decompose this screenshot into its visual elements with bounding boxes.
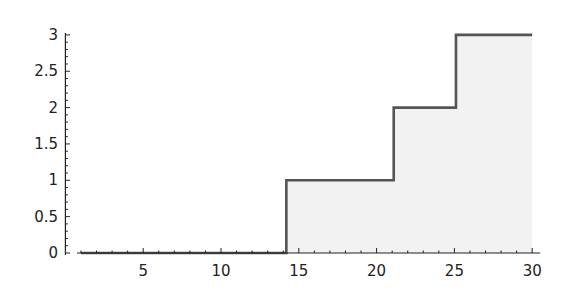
y-tick-label: 1	[48, 171, 58, 189]
y-tick-label: 0	[48, 244, 58, 262]
y-tick-label: 1.5	[34, 135, 58, 153]
x-tick-label: 30	[523, 262, 542, 280]
x-tick-label: 15	[289, 262, 308, 280]
step-chart: 51015202530 00.511.522.53	[0, 0, 569, 293]
area-fill-path	[81, 35, 532, 253]
y-tick-label: 2.5	[34, 62, 58, 80]
y-tick-label: 0.5	[34, 208, 58, 226]
area-fill	[81, 35, 532, 253]
y-tick-label: 3	[48, 26, 58, 44]
x-tick-label: 20	[367, 262, 386, 280]
x-tick-label: 10	[211, 262, 230, 280]
y-tick-label: 2	[48, 99, 58, 117]
y-axis-ticks: 00.511.522.53	[34, 26, 70, 262]
x-tick-label: 5	[138, 262, 148, 280]
x-tick-label: 25	[445, 262, 464, 280]
